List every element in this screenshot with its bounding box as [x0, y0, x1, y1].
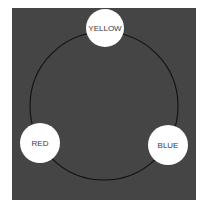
node-yellow-label: YELLOW [88, 24, 122, 33]
node-blue: BLUE [148, 125, 188, 165]
node-red-label: RED [32, 139, 49, 148]
color-cycle-diagram: YELLOW RED BLUE [0, 0, 210, 208]
node-red: RED [20, 123, 60, 163]
node-blue-label: BLUE [158, 141, 179, 150]
node-yellow: YELLOW [86, 9, 124, 47]
